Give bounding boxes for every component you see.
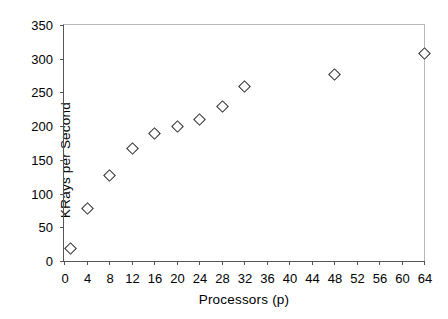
- x-axis-tick-label: 56: [373, 271, 387, 287]
- x-axis-tick-label: 48: [328, 271, 342, 287]
- data-point-marker: [103, 169, 116, 182]
- y-axis-tick-label: 200: [31, 118, 53, 136]
- x-axis-tick: 20: [177, 261, 178, 265]
- y-axis-tick-label: 0: [46, 253, 53, 271]
- y-axis-tick: 50: [60, 227, 64, 228]
- data-point-marker: [328, 68, 341, 81]
- x-axis-tick: 60: [402, 261, 403, 265]
- x-axis-tick: 40: [289, 261, 290, 265]
- y-axis-tick-label: 300: [31, 51, 53, 69]
- data-point-marker: [216, 100, 229, 113]
- x-axis-tick-label: 4: [84, 271, 91, 287]
- data-point-marker: [81, 203, 94, 216]
- x-axis-tick: 48: [334, 261, 335, 265]
- x-axis-tick-label: 20: [170, 271, 184, 287]
- x-axis-tick: 12: [132, 261, 133, 265]
- x-axis-tick-label: 36: [260, 271, 274, 287]
- y-axis-tick: 300: [60, 59, 64, 60]
- x-axis-tick-label: 16: [148, 271, 162, 287]
- data-point-marker: [148, 127, 161, 140]
- data-point-marker: [193, 114, 206, 127]
- x-axis-tick-label: 0: [61, 271, 68, 287]
- x-axis-tick-label: 60: [395, 271, 409, 287]
- plot-area: 050100150200250300350 048121620242832364…: [63, 24, 425, 262]
- y-axis-tick-label: 250: [31, 84, 53, 102]
- x-axis-tick: 36: [267, 261, 268, 265]
- x-axis-tick-label: 52: [350, 271, 364, 287]
- x-axis-tick: 56: [379, 261, 380, 265]
- scatter-chart: KRays per Second Processors (p) 05010015…: [0, 0, 448, 319]
- y-axis-tick-label: 350: [31, 17, 53, 35]
- x-axis-tick-label: 44: [305, 271, 319, 287]
- x-axis-tick-label: 12: [125, 271, 139, 287]
- x-axis-tick: 32: [244, 261, 245, 265]
- x-axis-tick: 16: [154, 261, 155, 265]
- y-axis-tick: 350: [60, 25, 64, 26]
- y-axis-tick: 250: [60, 92, 64, 93]
- data-point-marker: [126, 142, 139, 155]
- y-axis-tick-label: 100: [31, 186, 53, 204]
- x-axis-tick: 4: [87, 261, 88, 265]
- data-point-marker: [171, 120, 184, 133]
- x-axis-tick: 52: [357, 261, 358, 265]
- x-axis-tick: 8: [109, 261, 110, 265]
- data-point-marker: [64, 242, 77, 255]
- x-axis-tick-label: 8: [106, 271, 113, 287]
- x-axis-tick-label: 28: [215, 271, 229, 287]
- x-axis-tick-label: 40: [283, 271, 297, 287]
- x-axis-tick-label: 24: [193, 271, 207, 287]
- x-axis-tick-label: 64: [418, 271, 432, 287]
- x-axis-tick-label: 32: [238, 271, 252, 287]
- y-axis-tick: 100: [60, 194, 64, 195]
- x-axis-tick: 28: [222, 261, 223, 265]
- data-point-marker: [238, 80, 251, 93]
- y-axis-tick-label: 50: [39, 219, 53, 237]
- x-axis-label: Processors (p): [63, 292, 425, 307]
- data-point-marker: [418, 47, 431, 60]
- x-axis-tick: 0: [64, 261, 65, 265]
- x-axis-tick: 44: [312, 261, 313, 265]
- x-axis-tick: 64: [424, 261, 425, 265]
- x-axis-tick: 24: [199, 261, 200, 265]
- y-axis-tick: 150: [60, 160, 64, 161]
- y-axis-tick: 200: [60, 126, 64, 127]
- y-axis-tick-label: 150: [31, 152, 53, 170]
